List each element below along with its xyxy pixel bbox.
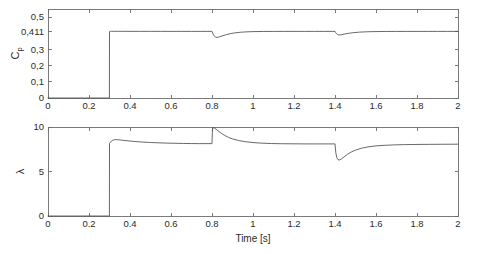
- x-tick-label: 0.4: [123, 100, 136, 111]
- y-tick-label: 5: [39, 166, 44, 177]
- figure-container: 00.20.40.60.811.21.41.61.8200,10,20,30,4…: [0, 0, 479, 254]
- x-tick-label: 0.8: [205, 218, 218, 229]
- x-tick-label: 1.8: [410, 100, 423, 111]
- data-line-Cp: [48, 31, 458, 98]
- x-tick-label: 1.6: [369, 218, 382, 229]
- y-tick-label: 0: [39, 92, 44, 103]
- x-tick-label: 0.8: [205, 100, 218, 111]
- y-tick-label: 0,411: [21, 26, 44, 37]
- y-axis-title: Cp: [9, 47, 24, 59]
- y-tick-label: 0,2: [31, 60, 44, 71]
- y-axis-title-subscript: p: [15, 47, 24, 51]
- x-tick-label: 1.4: [328, 100, 341, 111]
- x-tick-label: 1: [250, 218, 255, 229]
- y-tick-label: 0,5: [31, 11, 44, 22]
- plot-svg: 00.20.40.60.811.21.41.61.8200,10,20,30,4…: [0, 0, 479, 254]
- x-tick-label: 1: [250, 100, 255, 111]
- cp-subplot: 00.20.40.60.811.21.41.61.8200,10,20,30,4…: [9, 9, 461, 111]
- y-tick-label: 10: [33, 121, 44, 132]
- x-tick-label: 0.6: [164, 218, 177, 229]
- x-tick-label: 1.8: [410, 218, 423, 229]
- lambda-subplot: 00.20.40.60.811.21.41.61.820510Time [s]λ: [14, 121, 461, 244]
- x-tick-label: 0.6: [164, 100, 177, 111]
- x-tick-label: 1.4: [328, 218, 341, 229]
- x-tick-label: 1.2: [287, 218, 300, 229]
- x-axis-title: Time [s]: [235, 233, 270, 244]
- y-axis-title: λ: [14, 168, 26, 174]
- x-tick-label: 2: [455, 100, 460, 111]
- x-tick-label: 0.2: [82, 218, 95, 229]
- x-tick-label: 0: [45, 218, 50, 229]
- x-tick-label: 0.4: [123, 218, 136, 229]
- x-tick-label: 0: [45, 100, 50, 111]
- x-tick-label: 1.2: [287, 100, 300, 111]
- y-tick-label: 0,3: [31, 44, 44, 55]
- y-tick-label: 0: [39, 210, 44, 221]
- y-tick-label: 0,1: [31, 76, 44, 87]
- data-line-lambda: [48, 128, 458, 216]
- x-tick-label: 2: [455, 218, 460, 229]
- x-tick-label: 1.6: [369, 100, 382, 111]
- x-tick-label: 0.2: [82, 100, 95, 111]
